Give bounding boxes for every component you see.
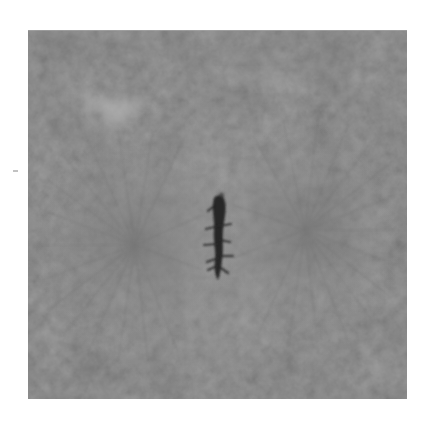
micrograph-svg [28, 30, 407, 399]
micrograph-image [28, 30, 407, 399]
stray-speck [13, 170, 18, 172]
top-edge [28, 30, 407, 31]
